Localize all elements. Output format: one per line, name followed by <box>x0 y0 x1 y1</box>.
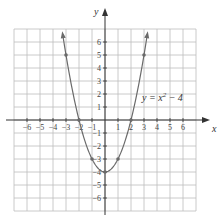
svg-text:5: 5 <box>97 51 101 60</box>
svg-text:4: 4 <box>155 123 159 132</box>
svg-text:−5: −5 <box>92 181 101 190</box>
svg-text:1: 1 <box>116 123 120 132</box>
svg-text:6: 6 <box>97 38 101 47</box>
y-axis-label: y <box>93 6 99 17</box>
axes <box>6 8 210 215</box>
svg-text:−5: −5 <box>36 123 45 132</box>
svg-text:1: 1 <box>97 103 101 112</box>
svg-text:−1: −1 <box>92 129 101 138</box>
equation-label: y = x2 − 4 <box>141 91 183 103</box>
svg-text:−6: −6 <box>23 123 32 132</box>
svg-text:−2: −2 <box>92 142 101 151</box>
equation-rhs: − 4 <box>166 92 183 103</box>
x-axis-label: x <box>211 123 217 134</box>
svg-text:−6: −6 <box>92 194 101 203</box>
svg-text:3: 3 <box>97 77 101 86</box>
svg-text:6: 6 <box>181 123 185 132</box>
svg-text:2: 2 <box>97 90 101 99</box>
svg-text:4: 4 <box>97 64 101 73</box>
parabola-chart: −6−5−4−3−2−1123456123456−1−2−3−4−5−6 x y… <box>0 0 221 220</box>
svg-text:5: 5 <box>168 123 172 132</box>
svg-text:−4: −4 <box>49 123 58 132</box>
equation-lhs: y = x <box>141 92 163 103</box>
svg-text:−3: −3 <box>62 123 71 132</box>
svg-text:3: 3 <box>142 123 146 132</box>
